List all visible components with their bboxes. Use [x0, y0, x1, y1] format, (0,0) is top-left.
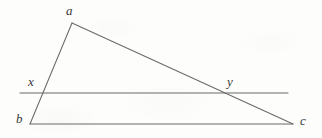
- segment-a-b: [30, 23, 72, 124]
- point-label-x: x: [28, 75, 34, 88]
- point-label-a: a: [66, 4, 73, 17]
- figure-canvas: [0, 0, 322, 138]
- point-label-b: b: [16, 112, 23, 125]
- geometry-figure: a b c x y: [0, 0, 322, 138]
- segment-a-c: [72, 23, 293, 124]
- point-label-y: y: [227, 75, 233, 88]
- point-label-c: c: [300, 114, 306, 127]
